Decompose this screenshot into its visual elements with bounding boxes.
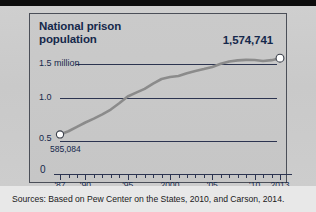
source-note: Sources: Based on Pew Center on the Stat…	[12, 194, 284, 204]
plot-area: 1.5 million 1.0 0.5 0 585,084 '87'90'952…	[30, 14, 288, 184]
data-marker-end	[276, 54, 284, 62]
chart-screenshot: National prison population 1,574,741 1.5…	[0, 0, 316, 212]
series-line-group	[30, 14, 288, 184]
chart-panel: National prison population 1,574,741 1.5…	[29, 13, 287, 183]
series-line-prison-population	[60, 58, 280, 134]
caption-background: Sources: Based on Pew Center on the Stat…	[0, 186, 316, 212]
data-marker-start	[56, 131, 63, 138]
